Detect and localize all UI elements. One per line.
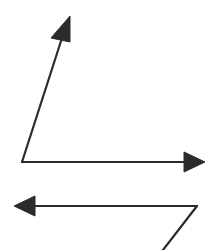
vector-diagram (0, 0, 210, 250)
up-arrow-shaft (22, 38, 62, 162)
left-arrowhead-icon (14, 196, 35, 216)
right-arrowhead-icon (184, 152, 205, 172)
up-arrowhead-icon (51, 16, 70, 42)
diagonal-line (163, 206, 197, 250)
